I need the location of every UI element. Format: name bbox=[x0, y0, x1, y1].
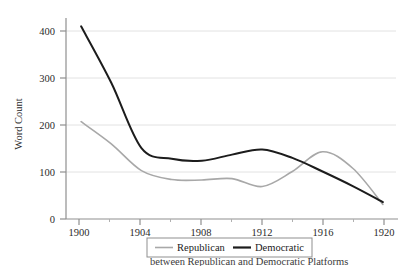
x-tick-label-1920: 1920 bbox=[374, 227, 395, 238]
y-axis-tick-labels: 400 300 200 100 0 bbox=[39, 26, 55, 225]
legend-label-republican: Republican bbox=[177, 242, 226, 253]
chart-figure: 400 300 200 100 0 Word Count 1900 bbox=[0, 0, 411, 266]
figure-caption-partial: between Republican and Democratic Platfo… bbox=[150, 256, 411, 266]
x-axis-tick-labels: 1900 1904 1908 1912 1916 1920 bbox=[69, 227, 395, 238]
series-line-democratic bbox=[81, 26, 383, 202]
gridlines bbox=[66, 31, 396, 172]
x-tick-label-1912: 1912 bbox=[252, 227, 273, 238]
y-axis-title: Word Count bbox=[13, 98, 24, 149]
chart-legend: Republican Democratic bbox=[147, 238, 312, 257]
y-tick-label-0: 0 bbox=[50, 214, 55, 225]
series-line-republican bbox=[81, 122, 383, 205]
y-tick-label-400: 400 bbox=[39, 26, 55, 37]
x-tick-label-1904: 1904 bbox=[130, 227, 152, 238]
x-tick-label-1908: 1908 bbox=[191, 227, 212, 238]
y-tick-label-300: 300 bbox=[39, 73, 55, 84]
y-axis-ticks bbox=[60, 31, 66, 219]
y-tick-label-100: 100 bbox=[39, 167, 55, 178]
x-tick-label-1900: 1900 bbox=[69, 227, 90, 238]
line-chart: 400 300 200 100 0 Word Count 1900 bbox=[0, 0, 411, 266]
y-tick-label-200: 200 bbox=[39, 120, 55, 131]
legend-label-democratic: Democratic bbox=[255, 242, 304, 253]
x-tick-label-1916: 1916 bbox=[313, 227, 334, 238]
